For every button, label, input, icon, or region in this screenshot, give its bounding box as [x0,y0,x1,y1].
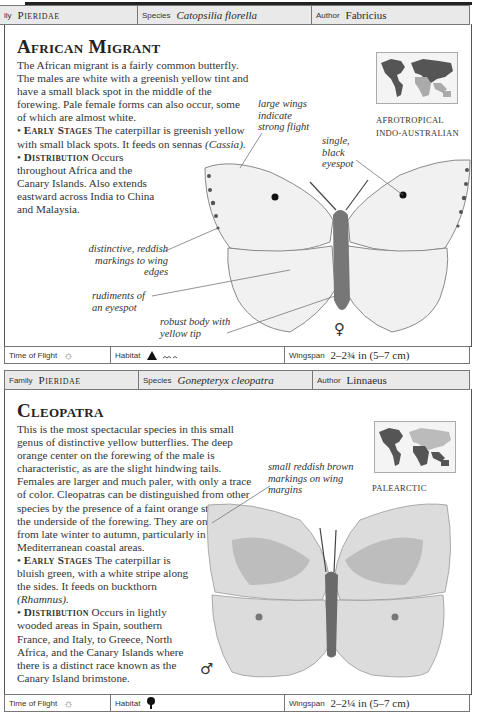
male-symbol: ♂ [200,660,213,678]
tree-icon [146,697,156,709]
annotation-wing-margins: small reddish brown markings on wing mar… [268,461,358,496]
time-of-flight-cell: Time of Flight ☼ [5,695,111,711]
entry-footer: Time of Flight ☼ Habitat Wingspan 2–2¼ i… [4,694,470,712]
wingspan-value: 2–2¼ in (5–7 cm) [331,697,410,709]
wingspan-cell: Wingspan 2–2¼ in (5–7 cm) [285,695,469,711]
habitat-label: Habitat [115,699,140,708]
wingspan-label: Wingspan [289,699,325,708]
sun-icon: ☼ [63,697,73,709]
butterfly-illustration-cleopatra [0,0,479,720]
time-of-flight-label: Time of Flight [9,699,57,708]
habitat-cell: Habitat [111,695,285,711]
